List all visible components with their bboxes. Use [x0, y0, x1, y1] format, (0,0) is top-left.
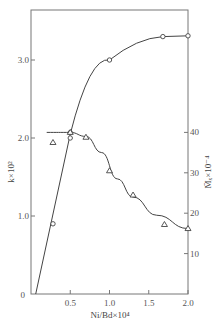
x-axis-title: Ni/Bd×10⁴	[90, 310, 129, 320]
y-tick-label: 1.0	[18, 211, 30, 221]
triangle-marker	[161, 222, 167, 227]
circle-marker	[107, 58, 111, 62]
k-curve	[36, 36, 188, 294]
x-tick-label: 2.0	[182, 298, 194, 308]
y-tick-label: 3.0	[18, 55, 30, 65]
y-axis-title: k×10²	[6, 161, 16, 183]
y2-tick-label: 30	[190, 168, 200, 178]
circle-marker	[68, 136, 72, 140]
triangle-marker	[107, 168, 113, 173]
triangle-marker	[130, 192, 136, 197]
y2-tick-label: 10	[190, 249, 200, 259]
circle-marker	[161, 34, 165, 38]
origin-label: 0	[21, 290, 26, 300]
y2-tick-label: 20	[190, 208, 200, 218]
plot-frame	[31, 10, 188, 294]
y-tick-label: 2.0	[18, 133, 30, 143]
x-tick-label: 1.5	[143, 298, 155, 308]
x-tick-label: 0.5	[65, 298, 77, 308]
circle-marker	[186, 34, 190, 38]
circle-marker	[51, 222, 55, 226]
x-tick-label: 1.0	[104, 298, 116, 308]
y2-tick-label: 40	[190, 127, 200, 137]
chart: 0.51.01.52.001.02.03.010203040Ni/Bd×10⁴k…	[0, 0, 222, 328]
triangle-marker	[50, 140, 56, 145]
y2-axis-title: M̄ₓ×10⁻⁴	[203, 156, 213, 189]
